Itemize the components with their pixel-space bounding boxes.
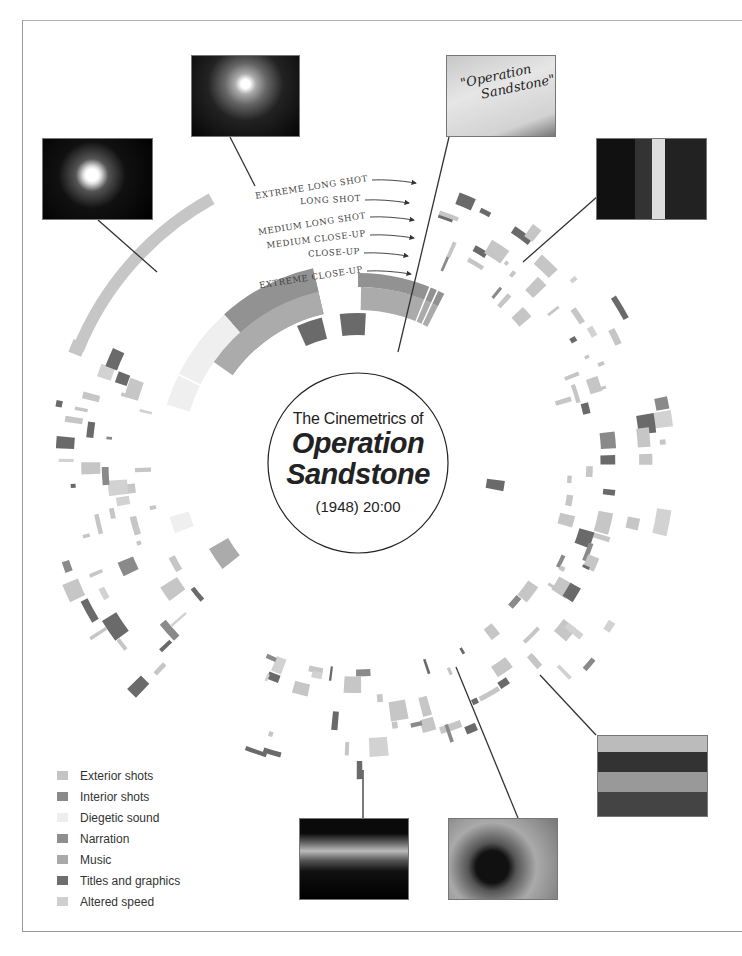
- cut-gap: [287, 604, 306, 653]
- photo-atomic-blast-night: [42, 138, 153, 220]
- shot-mark: [527, 653, 542, 669]
- legend-swatch-music: [57, 855, 68, 864]
- legend-item-interior: Interior shots: [57, 786, 180, 807]
- shot-mark: [586, 466, 593, 477]
- shot-mark: [467, 258, 484, 271]
- shot-mark: [171, 612, 187, 627]
- shot-mark: [583, 658, 596, 672]
- legend-item-speed: Altered speed: [57, 891, 180, 912]
- shot-mark: [331, 711, 339, 730]
- legend-item-titles: Titles and graphics: [57, 870, 180, 891]
- shot-mark: [139, 409, 152, 414]
- cut-gap: [466, 323, 505, 360]
- shot-mark: [447, 241, 457, 258]
- shot-mark: [484, 240, 509, 264]
- shot-mark: [555, 396, 572, 405]
- shot-mark: [420, 717, 436, 733]
- shot-mark: [86, 421, 95, 438]
- legend-swatch-narration: [57, 834, 68, 843]
- shot-mark: [106, 437, 112, 440]
- cut-gap: [469, 328, 509, 364]
- shot-mark: [491, 657, 513, 677]
- shot-mark: [571, 384, 581, 403]
- cut-gap: [393, 609, 407, 660]
- shot-mark: [625, 516, 640, 530]
- shot-mark: [102, 467, 110, 485]
- shot-mark: [81, 462, 100, 474]
- shot-mark: [441, 255, 450, 271]
- shot-mark: [479, 686, 501, 701]
- shot-mark: [357, 761, 363, 779]
- shot-mark: [447, 667, 453, 675]
- title-prefix: The Cinemetrics of: [268, 410, 448, 428]
- shot-mark: [636, 427, 650, 447]
- legend-item-exterior: Exterior shots: [57, 765, 180, 786]
- shot-mark: [82, 392, 100, 403]
- cut-gap: [488, 362, 534, 389]
- titles-segment: [340, 313, 366, 336]
- shot-mark: [608, 328, 622, 346]
- legend-swatch-titles: [57, 876, 68, 885]
- shot-mark: [369, 737, 389, 757]
- photo-title-card: "OperationSandstone": [446, 55, 556, 137]
- shot-mark: [75, 407, 88, 413]
- shot-mark: [191, 587, 205, 602]
- shot-mark: [55, 400, 62, 407]
- shot-mark: [82, 533, 90, 538]
- shot-mark: [654, 396, 669, 410]
- connector-line: [540, 675, 596, 735]
- shot-mark: [160, 577, 185, 601]
- legend-item-music: Music: [57, 849, 180, 870]
- cut-gap: [440, 588, 470, 632]
- scale-arrow-icon: [372, 180, 416, 183]
- shot-mark: [611, 296, 629, 321]
- photo-crew-on-deck: [597, 735, 708, 817]
- shot-mark: [169, 555, 183, 572]
- shot-mark: [99, 587, 110, 601]
- shot-mark: [389, 700, 409, 722]
- shot-mark: [344, 676, 362, 693]
- shot-mark: [587, 326, 598, 338]
- legend-item-diegetic: Diegetic sound: [57, 807, 180, 828]
- shot-mark: [511, 307, 531, 327]
- shot-mark: [62, 578, 85, 602]
- shot-mark: [603, 489, 616, 496]
- shot-mark: [557, 513, 575, 528]
- shot-mark: [377, 694, 383, 702]
- shot-mark: [329, 666, 333, 681]
- shot-mark: [392, 721, 398, 728]
- shot-mark: [109, 508, 116, 519]
- shot-mark: [149, 505, 156, 510]
- legend-label: Music: [80, 853, 111, 867]
- shot-mark: [491, 287, 502, 299]
- shot-mark: [564, 371, 580, 380]
- shot-mark: [89, 627, 107, 641]
- shot-mark: [356, 669, 371, 676]
- shot-mark: [59, 459, 74, 462]
- year-duration: (1948) 20:00: [268, 498, 448, 515]
- legend-label: Narration: [80, 832, 129, 846]
- shot-mark: [136, 540, 142, 546]
- shot-mark: [81, 598, 99, 622]
- title-card-text: "OperationSandstone": [459, 57, 556, 106]
- shot-mark: [135, 468, 151, 473]
- shot-mark: [65, 416, 83, 425]
- shot-mark: [410, 721, 422, 728]
- shot-mark: [479, 208, 491, 217]
- shot-mark: [130, 516, 141, 536]
- legend-label: Titles and graphics: [80, 874, 180, 888]
- shot-mark: [652, 508, 671, 536]
- shot-mark: [116, 496, 130, 507]
- shot-mark: [115, 371, 130, 386]
- shot-mark: [547, 306, 559, 317]
- scale-arrow-icon: [364, 253, 408, 256]
- legend-label: Altered speed: [80, 895, 154, 909]
- shot-mark: [600, 455, 615, 465]
- shot-mark: [439, 720, 462, 734]
- shot-mark: [508, 595, 521, 609]
- shot-mark: [639, 454, 652, 465]
- shot-mark: [118, 556, 139, 576]
- shot-mark: [584, 355, 590, 360]
- legend-swatch-interior: [57, 792, 68, 801]
- shot-mark: [600, 431, 617, 448]
